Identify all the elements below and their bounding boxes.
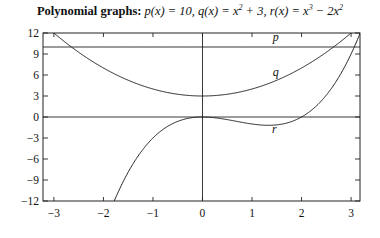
y-tick-label: 9 — [33, 48, 39, 60]
x-tick-label: 2 — [299, 207, 305, 219]
y-tick-label: −6 — [27, 153, 39, 165]
series-q-label: q — [273, 65, 279, 79]
series-q-line — [43, 23, 360, 96]
y-tick-label: 12 — [28, 27, 40, 39]
plot-area: pqr−3−2−10123129630−3−6−9−12 — [0, 0, 380, 238]
x-tick-label: −2 — [97, 207, 109, 219]
y-tick-label: 6 — [33, 69, 39, 81]
x-tick-label: 3 — [348, 207, 354, 219]
x-tick-label: −1 — [147, 207, 159, 219]
x-tick-label: 1 — [249, 207, 255, 219]
y-tick-label: 0 — [33, 111, 39, 123]
x-tick-label: 0 — [200, 207, 206, 219]
y-tick-label: −3 — [27, 132, 39, 144]
y-tick-label: −9 — [27, 174, 39, 186]
series-r-label: r — [272, 122, 277, 136]
y-tick-label: −12 — [21, 195, 39, 207]
x-tick-label: −3 — [48, 207, 60, 219]
y-tick-label: 3 — [33, 90, 39, 102]
